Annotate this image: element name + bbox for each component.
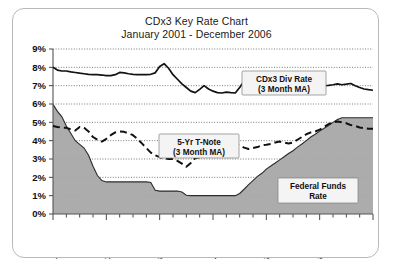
- chart-frame: CDx3 Key Rate Chart January 2001 - Decem…: [12, 8, 379, 258]
- x-tick-label-2004: 2004: [208, 257, 219, 259]
- cdx3-div-rate-label-line2: (3 Month MA): [258, 85, 310, 94]
- y-tick-label-0%: 0%: [32, 208, 46, 219]
- y-tick-label-2%: 2%: [32, 172, 46, 183]
- x-tick-label-2002: 2002: [101, 258, 112, 259]
- y-tick-label-5%: 5%: [32, 117, 46, 128]
- y-tick-label-9%: 9%: [32, 43, 46, 54]
- key-rate-chart-plot: 0%1%2%3%4%5%6%7%8%9% 2001200220032004200…: [13, 9, 380, 259]
- x-tick-label-2006: 2006: [314, 258, 325, 259]
- cdx3-div-rate-label-line1: CDx3 Div Rate: [256, 75, 312, 84]
- x-axis-tick-labels: 200120022003200420052006: [48, 257, 326, 259]
- federal-funds-rate-label-line2: Rate: [309, 192, 327, 201]
- x-tick-label-2003: 2003: [154, 258, 165, 259]
- five-yr-tnote-label-line2: (3 Month MA): [173, 148, 225, 157]
- y-tick-label-1%: 1%: [32, 190, 46, 201]
- y-tick-label-3%: 3%: [32, 153, 46, 164]
- federal-funds-rate-label-line1: Federal Funds: [290, 182, 346, 191]
- y-tick-label-7%: 7%: [32, 80, 46, 91]
- y-tick-label-4%: 4%: [32, 135, 46, 146]
- x-tick-label-2001: 2001: [48, 257, 59, 259]
- y-axis-tick-labels: 0%1%2%3%4%5%6%7%8%9%: [32, 43, 46, 219]
- five-yr-tnote-label-line1: 5-Yr T-Note: [177, 138, 221, 147]
- x-tick-label-2005: 2005: [261, 257, 272, 259]
- y-tick-label-8%: 8%: [32, 62, 46, 73]
- y-tick-label-6%: 6%: [32, 98, 46, 109]
